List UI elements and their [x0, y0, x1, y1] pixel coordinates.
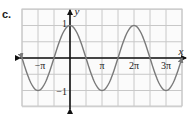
- x-axis-label: x: [178, 45, 184, 57]
- x-tick-label: −π: [35, 60, 46, 71]
- cosine-graph: −ππ2π3π1−1xy: [0, 0, 194, 114]
- x-tick-label: 2π: [129, 60, 139, 71]
- y-tick-label: 1: [62, 18, 67, 29]
- x-tick-label: π: [99, 60, 104, 71]
- x-tick-label: 3π: [161, 60, 171, 71]
- y-tick-label: −1: [56, 86, 67, 97]
- y-axis-label: y: [74, 5, 80, 17]
